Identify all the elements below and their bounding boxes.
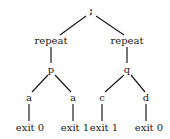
edge-root-repeat-right: [96, 16, 124, 35]
node-root-sequence: ;: [89, 5, 93, 16]
edge-root-repeat-left: [60, 16, 86, 35]
node-repeat-left: repeat: [35, 35, 68, 46]
edge-q-d: [131, 75, 145, 92]
tree-nodes: ; repeat repeat p q a a c d exit 0 exit …: [16, 5, 163, 133]
edge-p-a-left: [32, 75, 48, 92]
node-a-right: a: [70, 92, 76, 103]
node-p: p: [48, 64, 54, 75]
node-repeat-right: repeat: [111, 35, 144, 46]
node-exit-1-left: exit 1: [61, 122, 89, 133]
edge-q-c: [105, 75, 124, 92]
node-a-left: a: [26, 92, 32, 103]
node-exit-0-left: exit 0: [16, 122, 44, 133]
node-d: d: [143, 92, 150, 103]
node-exit-1-right: exit 1: [90, 122, 118, 133]
tree-diagram: ; repeat repeat p q a a c d exit 0 exit …: [0, 0, 170, 139]
node-c: c: [99, 92, 105, 103]
node-q: q: [124, 64, 131, 75]
edge-p-a-right: [55, 75, 71, 92]
node-exit-0-right: exit 0: [135, 122, 163, 133]
